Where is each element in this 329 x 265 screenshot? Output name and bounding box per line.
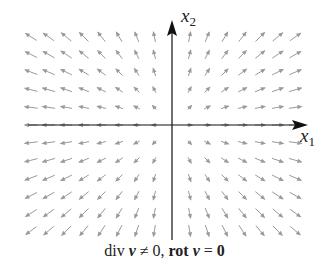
field-arrowhead-icon	[152, 68, 156, 73]
field-arrowhead-icon	[24, 141, 29, 145]
field-arrowhead-icon	[242, 105, 247, 109]
field-arrowhead-icon	[296, 33, 301, 38]
field-arrowhead-icon	[24, 87, 29, 91]
field-arrowhead-icon	[96, 105, 101, 109]
field-arrowhead-icon	[224, 50, 229, 55]
field-arrowhead-icon	[78, 141, 83, 145]
field-arrowhead-icon	[115, 158, 120, 163]
field-arrowhead-icon	[24, 159, 29, 163]
field-arrowhead-icon	[43, 33, 48, 38]
field-arrowhead-icon	[224, 87, 229, 92]
field-arrowhead-icon	[116, 50, 121, 55]
vector-field-plot	[0, 0, 329, 265]
field-arrowhead-icon	[134, 232, 138, 237]
field-arrowhead-icon	[187, 68, 191, 73]
field-arrowhead-icon	[279, 105, 284, 109]
field-arrowhead-icon	[134, 31, 138, 36]
field-arrowhead-icon	[224, 195, 229, 200]
field-arrowhead-icon	[43, 213, 48, 218]
field-arrowhead-icon	[116, 195, 121, 200]
field-arrowhead-icon	[297, 159, 302, 163]
field-arrowhead-icon	[206, 213, 210, 218]
field-arrowhead-icon	[152, 232, 156, 237]
field-arrowhead-icon	[260, 87, 265, 91]
figure-caption: div v ≠ 0, rot v = 0	[0, 242, 329, 260]
field-arrowhead-icon	[278, 50, 283, 55]
field-arrowhead-icon	[205, 68, 210, 73]
x2-axis-label: x2	[181, 6, 196, 28]
field-arrowhead-icon	[188, 49, 192, 54]
field-arrowhead-icon	[242, 231, 247, 236]
field-arrowhead-icon	[260, 159, 265, 163]
field-arrowhead-icon	[261, 141, 266, 145]
field-arrowhead-icon	[25, 33, 30, 38]
field-arrowhead-icon	[206, 232, 210, 237]
field-arrowhead-icon	[278, 195, 283, 200]
field-arrowhead-icon	[24, 123, 29, 127]
field-arrowhead-icon	[206, 31, 210, 36]
field-arrowhead-icon	[297, 105, 302, 109]
field-arrowhead-icon	[205, 177, 210, 182]
x2-axis	[167, 20, 177, 240]
field-arrowhead-icon	[96, 141, 101, 145]
field-arrowhead-icon	[97, 69, 102, 74]
field-arrowhead-icon	[115, 140, 120, 144]
field-arrowhead-icon	[25, 212, 30, 217]
field-arrowhead-icon	[152, 195, 156, 200]
field-arrowhead-icon	[115, 87, 120, 92]
field-arrowhead-icon	[24, 177, 29, 181]
field-arrowhead-icon	[188, 31, 192, 36]
field-arrowhead-icon	[24, 69, 29, 73]
field-arrowhead-icon	[60, 141, 65, 145]
field-arrowhead-icon	[242, 69, 247, 74]
field-arrowhead-icon	[297, 87, 302, 91]
field-arrowhead-icon	[78, 87, 83, 91]
field-arrowhead-icon	[134, 213, 138, 218]
field-arrowhead-icon	[134, 68, 139, 73]
field-arrowhead-icon	[42, 159, 47, 163]
field-arrowhead-icon	[42, 141, 47, 145]
field-arrowhead-icon	[134, 177, 139, 182]
field-arrowhead-icon	[25, 230, 30, 235]
field-arrowhead-icon	[279, 159, 284, 163]
field-arrowhead-icon	[152, 31, 156, 36]
field-arrowhead-icon	[187, 177, 191, 182]
field-arrowhead-icon	[60, 87, 65, 91]
field-arrowhead-icon	[242, 177, 247, 182]
field-arrowhead-icon	[296, 213, 301, 218]
field-arrowhead-icon	[188, 214, 192, 219]
field-arrowhead-icon	[152, 177, 156, 182]
field-arrowhead-icon	[97, 177, 102, 182]
field-arrowhead-icon	[188, 232, 192, 237]
field-arrowhead-icon	[97, 231, 102, 236]
field-arrowhead-icon	[242, 141, 247, 145]
field-arrowhead-icon	[152, 49, 156, 54]
field-arrowhead-icon	[60, 105, 65, 109]
field-arrowhead-icon	[60, 159, 65, 163]
field-arrowhead-icon	[42, 87, 47, 91]
field-arrowhead-icon	[60, 50, 65, 55]
x1-axis	[28, 120, 308, 130]
x1-axis-label: x1	[300, 126, 315, 148]
field-arrowhead-icon	[42, 105, 47, 109]
field-arrowhead-icon	[60, 195, 65, 200]
field-arrowhead-icon	[78, 105, 83, 109]
field-arrowhead-icon	[224, 158, 229, 163]
field-arrowhead-icon	[152, 214, 156, 219]
field-arrowhead-icon	[78, 159, 83, 163]
field-arrows	[24, 31, 303, 237]
field-arrowhead-icon	[188, 195, 192, 200]
field-arrowhead-icon	[224, 105, 229, 109]
field-arrowhead-icon	[24, 105, 29, 109]
field-arrowhead-icon	[279, 87, 284, 91]
field-arrowhead-icon	[261, 105, 266, 109]
field-arrowhead-icon	[279, 141, 284, 145]
field-arrowhead-icon	[224, 140, 229, 144]
field-arrowhead-icon	[115, 105, 120, 109]
